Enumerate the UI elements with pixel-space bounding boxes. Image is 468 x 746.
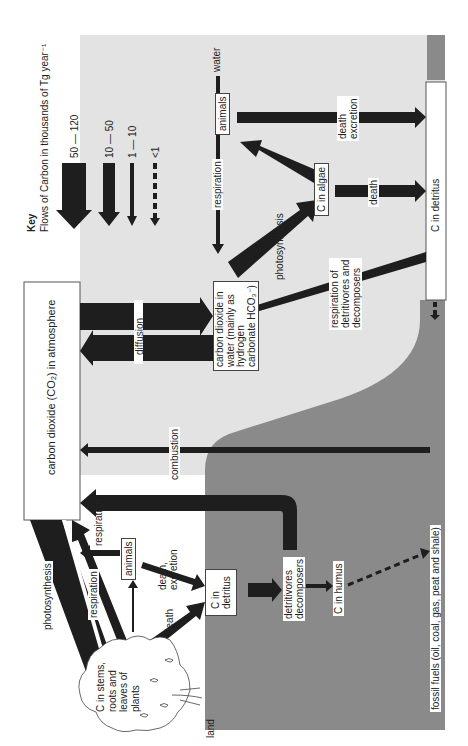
water-death-excretion-label: death excretion — [337, 96, 359, 141]
plants-label: C in stems, roots and leaves of plants — [95, 662, 141, 712]
water-region-label: water — [211, 48, 222, 72]
water-respiration-label: respiration — [212, 159, 223, 210]
humus-box: C in humus — [333, 561, 344, 616]
algae-death-label: death — [368, 178, 379, 207]
land-detritus-box: C in detritus — [205, 569, 237, 616]
plants-to-animals-arrow — [128, 580, 138, 632]
carbon-cycle-diagram: Key Flows of Carbon in thousands of Tg y… — [0, 0, 468, 746]
plant-death-label: death — [164, 609, 175, 634]
land-animals-box: animals — [121, 538, 136, 580]
water-photosynthesis-label: photosynthesis — [274, 213, 285, 280]
sediment-strip — [427, 35, 445, 80]
water-decomposer-respiration-label: respiration of detritivores and decompos… — [329, 258, 362, 330]
algae-box: C in algae — [314, 163, 329, 216]
key-label-50-120: 50 — 120 — [69, 115, 80, 158]
decomposers-box: detritivores decomposers — [283, 557, 305, 621]
key-title: Key — [26, 214, 37, 232]
water-animals-box: animals — [215, 93, 230, 135]
key-label-lt1: <1 — [150, 147, 161, 158]
water-co2-box: carbon dioxide in water (mainly as hydro… — [213, 281, 259, 371]
land-death-excretion-label: death, excretion — [157, 549, 179, 590]
land-region-label: land — [205, 719, 216, 738]
land-plant-respiration-label: respiration — [88, 569, 99, 620]
fossil-fuels-label: fossil fuels (oil, coal, gas, peat and s… — [430, 525, 441, 712]
land-animal-respiration-label: respiration — [93, 499, 104, 546]
atmosphere-label: carbon dioxide (CO₂) in atmosphere — [46, 300, 57, 475]
key-label-1-10: 1 — 10 — [127, 126, 138, 158]
key-label-10-50: 10 — 50 — [104, 120, 115, 158]
diffusion-label: diffusion — [134, 318, 145, 355]
water-detritus-label: C in detritus — [430, 179, 441, 232]
diagram-shapes — [0, 0, 468, 746]
key-subtitle: Flows of Carbon in thousands of Tg year⁻… — [39, 44, 50, 232]
land-photosynthesis-label: photosynthesis — [42, 561, 53, 632]
combustion-label: combustion — [169, 427, 180, 482]
